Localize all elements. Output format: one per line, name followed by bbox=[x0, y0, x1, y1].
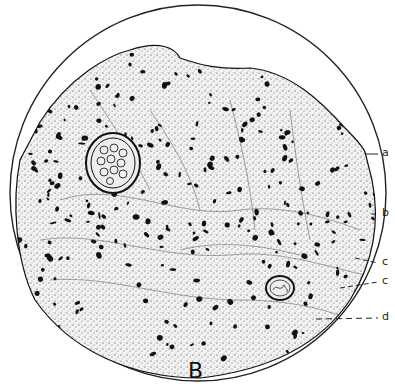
small-round-bundle bbox=[266, 276, 294, 300]
label-b: b bbox=[382, 207, 389, 218]
label-a: a bbox=[382, 147, 389, 158]
histology-drawing bbox=[0, 0, 395, 390]
tissue-section bbox=[16, 45, 376, 378]
label-d: d bbox=[382, 311, 389, 322]
figure-caption: B bbox=[188, 358, 203, 383]
large-round-bundle bbox=[86, 133, 140, 193]
label-c-lower: c bbox=[382, 275, 388, 286]
label-c-upper: c bbox=[382, 256, 388, 267]
